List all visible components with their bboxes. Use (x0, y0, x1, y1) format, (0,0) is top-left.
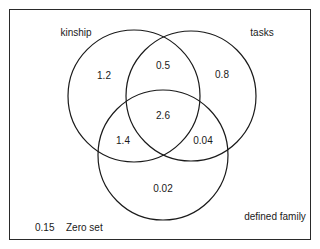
kinship-circle (68, 30, 200, 162)
region-kinship-only: 1.2 (97, 70, 111, 82)
kinship-set-label: kinship (60, 27, 91, 39)
region-tasks-only: 0.8 (215, 69, 229, 81)
defined-family-set-label: defined family (244, 211, 306, 223)
zero-set-value: 0.15 (35, 222, 54, 234)
region-all-three: 2.6 (156, 110, 170, 122)
region-defined-family-only: 0.02 (153, 183, 172, 195)
tasks-set-label: tasks (250, 27, 273, 39)
region-tasks-defined-family: 0.04 (193, 135, 212, 147)
region-kinship-tasks: 0.5 (156, 60, 170, 72)
zero-set-label: Zero set (66, 222, 103, 234)
region-kinship-defined-family: 1.4 (116, 135, 130, 147)
